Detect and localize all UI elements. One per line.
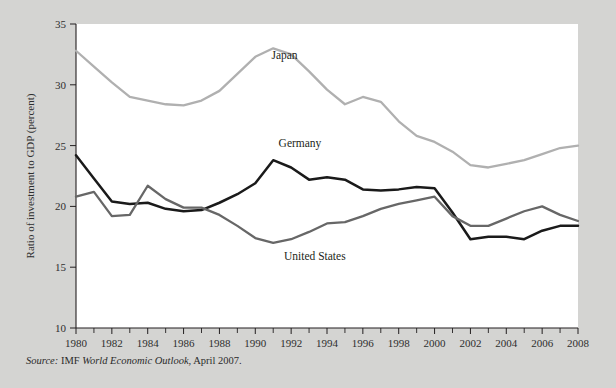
source-date: , April 2007.: [189, 355, 242, 366]
source-prefix: Source:: [26, 355, 58, 366]
x-tick-label: 1998: [388, 337, 411, 349]
x-tick-label: 1992: [280, 337, 302, 349]
source-note: Source: IMF World Economic Outlook, Apri…: [26, 355, 242, 366]
x-tick-label: 1980: [65, 337, 88, 349]
y-tick-label: 35: [55, 18, 67, 30]
x-tick-label: 1982: [101, 337, 123, 349]
y-tick-label: 30: [55, 79, 67, 91]
x-tick-label: 1996: [352, 337, 375, 349]
x-tick-label: 1990: [244, 337, 267, 349]
x-tick-label: 2006: [531, 337, 554, 349]
y-axis-title: Ratio of investment to GDP (percent): [24, 93, 37, 258]
series-label-united-states: United States: [284, 250, 346, 262]
x-tick-label: 1988: [208, 337, 231, 349]
x-tick-label: 2002: [459, 337, 481, 349]
x-tick-label: 1986: [173, 337, 196, 349]
y-axis-title-text: Ratio of investment to GDP (percent): [24, 93, 37, 258]
source-org: IMF: [61, 355, 80, 366]
x-tick-label: 2008: [567, 337, 590, 349]
x-tick-label: 1984: [137, 337, 160, 349]
series-label-japan: Japan: [271, 49, 297, 62]
y-tick-label: 10: [55, 322, 67, 334]
y-tick-label: 25: [55, 140, 67, 152]
x-tick-label: 1994: [316, 337, 339, 349]
figure-container: 1015202530351980198219841986198819901992…: [0, 0, 616, 388]
x-tick-label: 2004: [495, 337, 518, 349]
series-label-germany: Germany: [279, 137, 322, 150]
x-tick-label: 2000: [424, 337, 447, 349]
y-tick-label: 20: [55, 200, 67, 212]
y-tick-label: 15: [55, 261, 67, 273]
investment-gdp-line-chart: 1015202530351980198219841986198819901992…: [0, 0, 616, 388]
source-publication-title: World Economic Outlook: [82, 355, 188, 366]
